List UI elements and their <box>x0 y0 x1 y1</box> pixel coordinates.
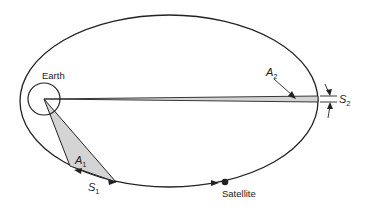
satellite-dot <box>222 179 229 186</box>
satellite-label: Satellite <box>222 188 256 199</box>
orbit-diagram: Earth Satellite A1 A2 S1 S2 <box>0 0 368 210</box>
a2-leader-line <box>274 79 292 95</box>
earth-label: Earth <box>42 70 65 81</box>
orbit-direction-arrow-icon <box>211 180 219 186</box>
s2-arrow-bottom-icon <box>327 102 333 109</box>
s2-arrow-top-icon <box>326 89 332 96</box>
arc-s1-label: S1 <box>88 181 100 196</box>
arc-s2-label: S2 <box>339 93 351 108</box>
area-a2-sector <box>44 96 318 102</box>
area-a2-label: A2 <box>265 66 278 81</box>
